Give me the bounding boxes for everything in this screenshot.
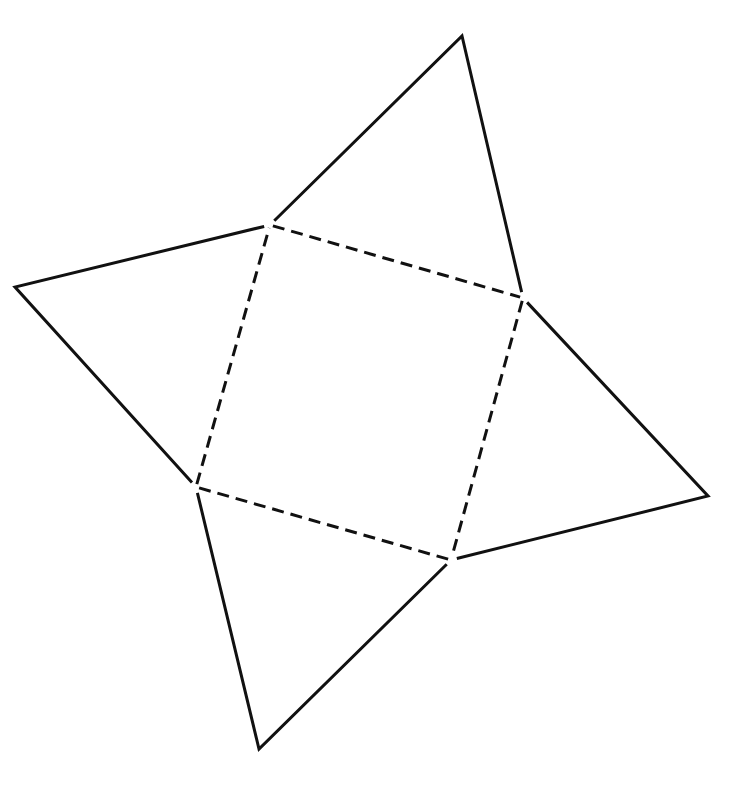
base-dashed-edge	[273, 226, 520, 297]
base-dashed-edge	[199, 488, 448, 559]
left-face	[15, 226, 264, 482]
square-base	[197, 226, 522, 559]
triangular-faces	[15, 36, 708, 749]
bottom-face	[197, 493, 446, 749]
right-face	[457, 302, 708, 558]
top-face	[274, 36, 521, 292]
left-face-solid-edges	[15, 226, 264, 482]
right-face-solid-edges	[457, 302, 708, 558]
base-dashed-edge	[197, 228, 269, 484]
base-dashed-edge	[452, 301, 522, 557]
bottom-face-solid-edges	[197, 493, 446, 749]
top-face-solid-edges	[274, 36, 521, 292]
pyramid-net-diagram	[0, 0, 741, 789]
